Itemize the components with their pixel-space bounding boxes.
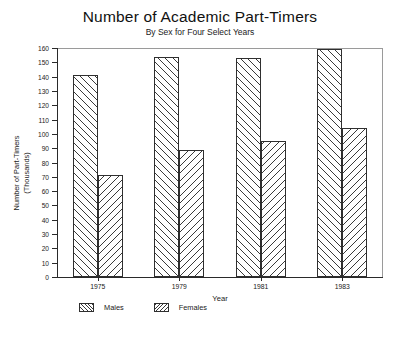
x-tick-label: 1983: [320, 283, 364, 290]
x-tick-label: 1979: [157, 283, 201, 290]
y-tick: [52, 148, 57, 149]
y-tick: [52, 248, 57, 249]
y-tick-label: 10: [19, 259, 49, 266]
bar-females-1983: [342, 128, 367, 277]
chart-subtitle: By Sex for Four Select Years: [0, 27, 400, 37]
y-tick: [52, 105, 57, 106]
y-tick: [52, 205, 57, 206]
legend-swatch-females: [154, 303, 169, 312]
y-axis-title: Number of Part-Timers (Thousands): [12, 93, 32, 253]
bar-males-1981: [236, 58, 261, 277]
y-tick: [52, 48, 57, 49]
y-axis-line: [57, 48, 58, 278]
y-tick: [52, 220, 57, 221]
bar-females-1975: [98, 175, 123, 277]
y-tick: [52, 77, 57, 78]
x-tick: [261, 277, 262, 281]
bar-females-1979: [179, 150, 204, 277]
y-axis-title-line1: Number of Part-Timers: [12, 93, 22, 253]
y-tick-label: 150: [19, 59, 49, 66]
y-tick: [52, 234, 57, 235]
x-axis-title: Year: [57, 294, 383, 303]
x-tick: [98, 277, 99, 281]
y-tick-label: 140: [19, 73, 49, 80]
y-tick: [52, 120, 57, 121]
x-tick-label: 1975: [76, 283, 120, 290]
y-tick: [52, 191, 57, 192]
x-tick-label: 1981: [239, 283, 283, 290]
y-tick: [52, 91, 57, 92]
bar-males-1983: [317, 49, 342, 277]
chart-legend: MalesFemales: [57, 303, 383, 312]
bar-males-1979: [154, 57, 179, 277]
bars-layer: [57, 48, 383, 277]
chart-title: Number of Academic Part-Timers: [0, 8, 400, 26]
y-tick: [52, 177, 57, 178]
x-tick: [179, 277, 180, 281]
bar-males-1975: [73, 75, 98, 277]
x-tick: [342, 277, 343, 281]
y-axis-title-line2: (Thousands): [22, 93, 32, 253]
x-axis-line: [57, 277, 383, 278]
y-tick: [52, 134, 57, 135]
y-tick: [52, 62, 57, 63]
y-tick: [52, 163, 57, 164]
y-tick: [52, 263, 57, 264]
legend-swatch-males: [79, 303, 94, 312]
chart-root: Number of Academic Part-Timers By Sex fo…: [0, 0, 400, 338]
bar-females-1981: [261, 141, 286, 277]
legend-label-males: Males: [104, 303, 124, 312]
legend-item-females: Females: [154, 303, 207, 312]
y-tick: [52, 277, 57, 278]
legend-label-females: Females: [179, 303, 207, 312]
y-tick-label: 160: [19, 45, 49, 52]
legend-item-males: Males: [79, 303, 124, 312]
y-tick-label: 0: [19, 274, 49, 281]
